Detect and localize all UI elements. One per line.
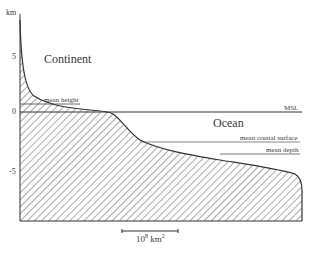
- ocean-label: Ocean: [213, 116, 244, 131]
- y-tick-minus-5: -5: [9, 167, 16, 176]
- mean-depth-label: mean depth: [266, 146, 298, 154]
- y-axis-unit-label: km: [6, 8, 16, 17]
- y-tick-0: 0: [12, 107, 16, 116]
- scale-bar-label: 108 km2: [136, 233, 165, 244]
- mean-crustal-surface-label: mean crustal surface: [240, 134, 298, 142]
- mean-height-label: mean height: [44, 96, 78, 104]
- hypsometric-diagram: [0, 0, 311, 253]
- crust-hatched-area: [20, 20, 302, 221]
- continent-label: Continent: [44, 52, 91, 67]
- msl-label: MSL: [284, 104, 298, 112]
- y-tick-5: 5: [12, 52, 16, 61]
